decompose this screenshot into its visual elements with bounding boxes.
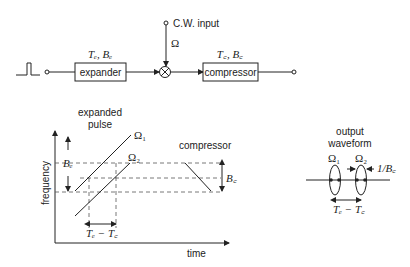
input-terminal (45, 70, 49, 74)
output-waveform: output waveform Ω₁ Ω₂ 1/B꜀ Tₑ − T꜀ (306, 126, 396, 215)
compressor-chirp (185, 163, 211, 191)
output-title-2: waveform (327, 138, 371, 149)
expanded-pulse-label-2: pulse (88, 119, 112, 130)
pulse-compression-diagram: expander Tₑ, Bₑ C.W. input Ω compressor … (0, 0, 410, 267)
frequency-time-graph: frequency time expanded pulse Ω₁ Ω₂ Bₑ c… (40, 107, 237, 259)
compressor-block-label: compressor (204, 67, 257, 78)
te-tc-label: Tₑ − T꜀ (86, 227, 118, 239)
cw-input-terminal (164, 21, 168, 25)
output-omega1: Ω₁ (328, 152, 340, 164)
omega2-chirp (75, 163, 130, 216)
compressor-params: T꜀, B꜀ (217, 48, 243, 60)
expanded-pulse-label: expanded (78, 107, 122, 118)
block-diagram: expander Tₑ, Bₑ C.W. input Ω compressor … (16, 18, 296, 81)
expander-label: expander (80, 67, 122, 78)
output-title-1: output (336, 126, 364, 137)
input-pulse-icon (16, 63, 40, 75)
compressor-graph-label: compressor (179, 140, 232, 151)
expander-params: Tₑ, Bₑ (88, 48, 112, 60)
output-omega2: Ω₂ (355, 152, 367, 164)
mixer-icon (160, 67, 171, 78)
width-label: 1/B꜀ (377, 162, 396, 174)
spacing-label: Tₑ − T꜀ (333, 203, 365, 215)
bc-label: B꜀ (226, 172, 237, 184)
y-axis-label: frequency (40, 161, 51, 205)
cw-input-label: C.W. input (173, 18, 219, 29)
output-terminal (292, 70, 296, 74)
be-label: Bₑ (63, 157, 73, 169)
omega-label: Ω (171, 37, 179, 49)
x-axis-label: time (187, 248, 206, 259)
omega1-label: Ω₁ (134, 129, 146, 141)
omega2-label: Ω₂ (128, 151, 140, 163)
